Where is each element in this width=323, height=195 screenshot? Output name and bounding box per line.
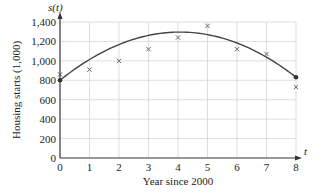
housing-starts-chart: 02004006008001,0001,2001,400 012345678 s… xyxy=(0,0,323,195)
y-axis-label: Housing starts (1,000) xyxy=(10,41,23,139)
y-tick-label: 200 xyxy=(40,133,57,145)
x-tick-label: 6 xyxy=(234,161,240,173)
x-tick-label: 3 xyxy=(146,161,152,173)
y-tick-label: 1,000 xyxy=(31,55,56,67)
x-axis-label: Year since 2000 xyxy=(143,175,214,187)
y-axis-arrow xyxy=(58,12,63,19)
x-tick-label: 8 xyxy=(293,161,299,173)
x-axis-arrow xyxy=(295,156,302,161)
y-tick-label: 0 xyxy=(51,152,57,164)
x-axis-ticks: 012345678 xyxy=(57,161,299,173)
y-axis-ticks: 02004006008001,0001,2001,400 xyxy=(31,16,56,164)
y-axis-symbol: s(t) xyxy=(48,1,63,14)
x-axis-symbol: t xyxy=(304,145,308,157)
x-tick-label: 2 xyxy=(116,161,122,173)
y-tick-label: 400 xyxy=(40,113,57,125)
x-tick-label: 5 xyxy=(205,161,211,173)
curve-endpoint-dot xyxy=(294,75,299,80)
y-tick-label: 600 xyxy=(40,94,57,106)
y-tick-label: 1,400 xyxy=(31,16,56,28)
y-tick-label: 800 xyxy=(40,74,57,86)
x-tick-label: 4 xyxy=(175,161,181,173)
gridlines xyxy=(60,22,296,158)
x-tick-label: 7 xyxy=(264,161,270,173)
x-tick-label: 0 xyxy=(57,161,63,173)
y-tick-label: 1,200 xyxy=(31,35,56,47)
x-tick-label: 1 xyxy=(87,161,93,173)
